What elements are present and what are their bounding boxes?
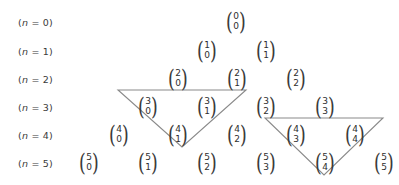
binomial-coefficient: (30) — [137, 97, 159, 117]
binomial-values: 20 — [175, 69, 181, 88]
binomial-values: 51 — [145, 153, 151, 172]
binomial-lower-index: 1 — [263, 51, 269, 61]
binomial-coefficient: (43) — [285, 125, 307, 145]
binomial-values: 10 — [204, 41, 210, 60]
left-paren-glyph: ( — [138, 97, 145, 117]
pascals-triangle-figure: (n = 0)(n = 1)(n = 2)(n = 3)(n = 4)(n = … — [0, 0, 399, 185]
left-paren-glyph: ( — [286, 69, 293, 89]
right-paren-glyph: ) — [358, 125, 365, 145]
binomial-lower-index: 2 — [204, 163, 210, 173]
left-paren-glyph: ( — [315, 97, 322, 117]
binomial-lower-index: 3 — [322, 107, 328, 117]
binomial-values: 00 — [233, 12, 239, 31]
binomial-coefficient: (11) — [255, 41, 277, 61]
binomial-lower-index: 0 — [175, 79, 181, 89]
left-paren-glyph: ( — [197, 153, 204, 173]
binomial-coefficient: (20) — [167, 69, 189, 89]
binomial-values: 55 — [381, 153, 387, 172]
binomial-coefficient: (44) — [344, 125, 366, 145]
left-paren-glyph: ( — [197, 97, 204, 117]
binomial-values: 32 — [263, 97, 269, 116]
row-label-n-4: (n = 4) — [18, 130, 53, 141]
right-paren-glyph: ) — [299, 125, 306, 145]
row-label-n-5: (n = 5) — [18, 158, 53, 169]
right-paren-glyph: ) — [328, 97, 335, 117]
right-paren-glyph: ) — [151, 97, 158, 117]
left-paren-glyph: ( — [109, 125, 116, 145]
left-paren-glyph: ( — [227, 125, 234, 145]
right-paren-glyph: ) — [92, 153, 99, 173]
binomial-values: 40 — [116, 125, 122, 144]
left-paren-glyph: ( — [315, 153, 322, 173]
right-paren-glyph: ) — [269, 97, 276, 117]
binomial-coefficient: (40) — [108, 125, 130, 145]
right-paren-glyph: ) — [328, 153, 335, 173]
binomial-values: 31 — [204, 97, 210, 116]
binomial-lower-index: 1 — [145, 163, 151, 173]
row-label-n-0: (n = 0) — [18, 17, 53, 28]
left-paren-glyph: ( — [138, 153, 145, 173]
binomial-lower-index: 4 — [322, 163, 328, 173]
binomial-coefficient: (22) — [285, 69, 307, 89]
right-paren-glyph: ) — [181, 125, 188, 145]
binomial-values: 33 — [322, 97, 328, 116]
right-paren-glyph: ) — [269, 41, 276, 61]
binomial-coefficient: (53) — [255, 153, 277, 173]
right-paren-glyph: ) — [210, 41, 217, 61]
binomial-coefficient: (50) — [78, 153, 100, 173]
binomial-lower-index: 4 — [352, 135, 358, 145]
left-paren-glyph: ( — [256, 153, 263, 173]
binomial-lower-index: 2 — [293, 79, 299, 89]
binomial-values: 30 — [145, 97, 151, 116]
binomial-coefficient: (21) — [226, 69, 248, 89]
binomial-lower-index: 5 — [381, 163, 387, 173]
right-paren-glyph: ) — [122, 125, 129, 145]
binomial-values: 42 — [234, 125, 240, 144]
binomial-values: 43 — [293, 125, 299, 144]
right-paren-glyph: ) — [151, 153, 158, 173]
binomial-coefficient: (10) — [196, 41, 218, 61]
binomial-coefficient: (42) — [226, 125, 248, 145]
binomial-lower-index: 3 — [293, 135, 299, 145]
left-paren-glyph: ( — [197, 41, 204, 61]
binomial-coefficient: (51) — [137, 153, 159, 173]
binomial-lower-index: 1 — [175, 135, 181, 145]
left-paren-glyph: ( — [168, 125, 175, 145]
left-paren-glyph: ( — [227, 69, 234, 89]
binomial-values: 52 — [204, 153, 210, 172]
binomial-coefficient: (41) — [167, 125, 189, 145]
binomial-lower-index: 1 — [234, 79, 240, 89]
binomial-values: 50 — [86, 153, 92, 172]
binomial-lower-index: 0 — [116, 135, 122, 145]
binomial-coefficient: (33) — [314, 97, 336, 117]
binomial-coefficient: (52) — [196, 153, 218, 173]
left-paren-glyph: ( — [286, 125, 293, 145]
binomial-lower-index: 2 — [234, 135, 240, 145]
right-paren-glyph: ) — [210, 153, 217, 173]
right-paren-glyph: ) — [181, 69, 188, 89]
binomial-lower-index: 0 — [145, 107, 151, 117]
binomial-lower-index: 1 — [204, 107, 210, 117]
binomial-lower-index: 3 — [263, 163, 269, 173]
right-paren-glyph: ) — [269, 153, 276, 173]
right-paren-glyph: ) — [299, 69, 306, 89]
left-paren-glyph: ( — [345, 125, 352, 145]
binomial-values: 44 — [352, 125, 358, 144]
binomial-values: 41 — [175, 125, 181, 144]
row-label-n-1: (n = 1) — [18, 46, 53, 57]
right-paren-glyph: ) — [240, 125, 247, 145]
left-paren-glyph: ( — [256, 41, 263, 61]
left-paren-glyph: ( — [226, 12, 233, 32]
binomial-lower-index: 2 — [263, 107, 269, 117]
binomial-lower-index: 0 — [204, 51, 210, 61]
binomial-coefficient: (00) — [225, 12, 247, 32]
binomial-coefficient: (31) — [196, 97, 218, 117]
left-paren-glyph: ( — [79, 153, 86, 173]
row-label-n-2: (n = 2) — [18, 74, 53, 85]
binomial-coefficient: (32) — [255, 97, 277, 117]
right-paren-glyph: ) — [387, 153, 394, 173]
binomial-lower-index: 0 — [86, 163, 92, 173]
left-paren-glyph: ( — [168, 69, 175, 89]
right-paren-glyph: ) — [239, 12, 246, 32]
left-paren-glyph: ( — [256, 97, 263, 117]
